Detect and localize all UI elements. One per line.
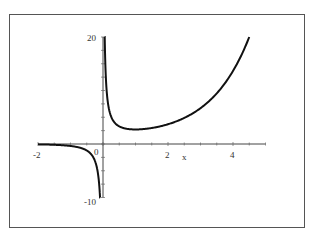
y-tick-20: 20 [87, 33, 97, 43]
origin-label: 0 [94, 147, 99, 157]
axes [38, 37, 266, 198]
x-axis-label: x [182, 152, 187, 162]
chart-plot: -2 0 2 x 4 20 -10 [0, 0, 320, 238]
curve [38, 37, 249, 198]
x-tick-neg2: -2 [33, 150, 41, 160]
x-tick-2: 2 [165, 150, 170, 160]
y-tick-neg10: -10 [84, 197, 96, 207]
ticks [38, 37, 266, 198]
curve-branch [105, 37, 250, 129]
curve-branch [38, 144, 100, 197]
x-tick-4: 4 [230, 150, 235, 160]
